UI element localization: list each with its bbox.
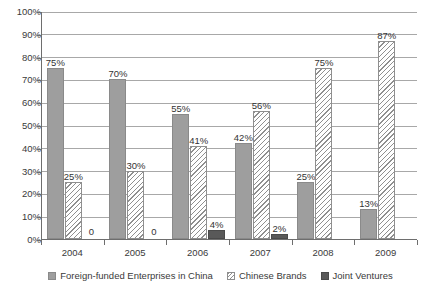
x-axis-tick-mark [354, 240, 355, 245]
bar-group: 70%30%0 [105, 12, 168, 239]
chart-legend: Foreign-funded Enterprises in ChinaChine… [0, 266, 441, 286]
y-axis-tick-label: 70% [1, 75, 41, 85]
bar-2007-series0[interactable]: 42% [235, 143, 252, 239]
y-axis-tick-label: 90% [1, 30, 41, 40]
x-axis-tick-mark [229, 240, 230, 245]
bar-2006-series1[interactable]: 41% [190, 146, 207, 239]
y-axis-tick-label: 80% [1, 53, 41, 63]
bar-group: 42%56%2% [230, 12, 293, 239]
x-axis-label-2009: 2009 [354, 247, 417, 258]
y-axis-tick-label: 10% [1, 212, 41, 222]
bar-2006-series0[interactable]: 55% [172, 114, 189, 239]
bar-chart: 0%10%20%30%40%50%60%70%80%90%100% 75%25%… [0, 0, 441, 289]
y-axis-tick-label: 20% [1, 189, 41, 199]
bar-value-label: 0 [89, 227, 94, 237]
bar-group: 75%25%0 [42, 12, 105, 239]
bar-group: 25%75% [293, 12, 356, 239]
legend-label: Foreign-funded Enterprises in China [60, 271, 213, 281]
bar-2004-series0[interactable]: 75% [47, 68, 64, 239]
legend-swatch-icon [227, 272, 235, 280]
x-axis-tick-mark [41, 240, 42, 245]
bar-group: 55%41%4% [167, 12, 230, 239]
bar-2009-series1[interactable]: 87% [378, 41, 395, 239]
x-axis-tick-mark [417, 240, 418, 245]
bar-2004-series1[interactable]: 25% [65, 182, 82, 239]
legend-swatch-icon [321, 272, 329, 280]
bar-2008-series0[interactable]: 25% [297, 182, 314, 239]
bar-value-label: 4% [210, 220, 224, 230]
bar-2009-series0[interactable]: 13% [360, 209, 377, 239]
legend-item-series1[interactable]: Chinese Brands [227, 271, 307, 281]
bar-value-label: 75% [314, 58, 333, 68]
bar-2005-series0[interactable]: 70% [109, 79, 126, 239]
x-axis-tick-mark [104, 240, 105, 245]
bar-2007-series2[interactable]: 2% [271, 234, 288, 239]
bar-2008-series1[interactable]: 75% [315, 68, 332, 239]
bar-value-label: 25% [296, 172, 315, 182]
x-axis-label-2008: 2008 [292, 247, 355, 258]
x-axis: 200420052006200720082009 [41, 240, 417, 262]
bar-value-label: 0 [151, 227, 156, 237]
bar-value-label: 70% [108, 69, 127, 79]
bar-value-label: 13% [359, 199, 378, 209]
bar-value-label: 56% [252, 101, 271, 111]
bar-value-label: 42% [234, 133, 253, 143]
bar-value-label: 41% [189, 136, 208, 146]
bar-value-label: 87% [377, 31, 396, 41]
legend-item-series0[interactable]: Foreign-funded Enterprises in China [48, 271, 213, 281]
bar-group: 13%87% [355, 12, 418, 239]
x-axis-tick-mark [292, 240, 293, 245]
y-axis-tick-label: 0% [1, 235, 41, 245]
x-axis-label-2007: 2007 [229, 247, 292, 258]
bar-value-label: 75% [46, 58, 65, 68]
x-axis-tick-mark [166, 240, 167, 245]
bar-value-label: 25% [64, 172, 83, 182]
y-axis-tick-label: 60% [1, 98, 41, 108]
bar-value-label: 55% [171, 104, 190, 114]
bar-value-label: 30% [126, 161, 145, 171]
bar-value-label: 2% [272, 224, 286, 234]
legend-swatch-icon [48, 272, 56, 280]
bar-2007-series1[interactable]: 56% [253, 111, 270, 239]
x-axis-label-2005: 2005 [104, 247, 167, 258]
plot-area: 75%25%070%30%055%41%4%42%56%2%25%75%13%8… [41, 12, 417, 240]
bar-2005-series1[interactable]: 30% [127, 171, 144, 239]
y-axis-tick-label: 50% [1, 121, 41, 131]
legend-label: Chinese Brands [239, 271, 307, 281]
y-axis-tick-label: 100% [1, 7, 41, 17]
bar-2006-series2[interactable]: 4% [208, 230, 225, 239]
y-axis-tick-label: 30% [1, 167, 41, 177]
x-axis-label-2006: 2006 [166, 247, 229, 258]
y-axis-tick-label: 40% [1, 144, 41, 154]
legend-label: Joint Ventures [333, 271, 393, 281]
x-axis-label-2004: 2004 [41, 247, 104, 258]
legend-item-series2[interactable]: Joint Ventures [321, 271, 393, 281]
y-axis: 0%10%20%30%40%50%60%70%80%90%100% [0, 0, 41, 242]
